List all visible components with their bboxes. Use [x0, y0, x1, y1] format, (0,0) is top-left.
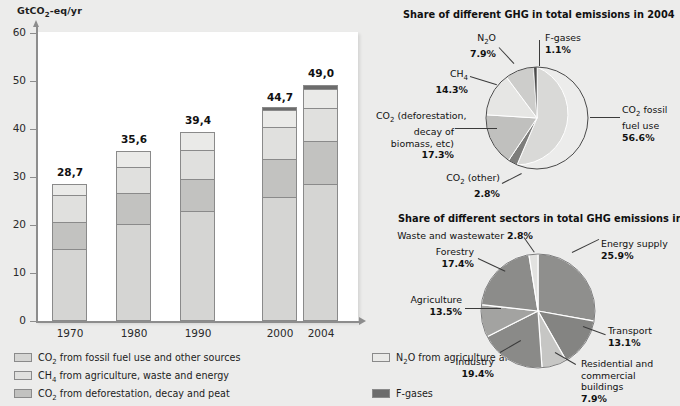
- pie-ghg-leader-co2-deforestation: [455, 128, 497, 129]
- pie-ghg-value-n2o: 7.9%: [470, 48, 496, 59]
- y-tick-label-20: 20: [2, 218, 26, 230]
- bar-2004[interactable]: [303, 0, 338, 322]
- pie-sectors-value-transport: 13.1%: [608, 337, 641, 348]
- pie-ghg-label-fgases: F-gases 1.1%: [545, 32, 615, 55]
- pie-ghg-chart[interactable]: [485, 66, 589, 170]
- pie-sectors-label-forestry: Forestry 17.4%: [400, 246, 474, 269]
- y-axis-title-main: GtCO: [17, 5, 45, 16]
- y-tick-label-10: 10: [2, 266, 26, 278]
- bar-2000-seg-co2-deforestation: [262, 159, 297, 197]
- pie-ghg-label-ch4: CH4 14.3%: [400, 68, 468, 96]
- pie-sectors-svg: [480, 253, 596, 369]
- bar-total-1970: 28,7: [40, 166, 100, 178]
- pie-sectors-value-industry: 19.4%: [461, 368, 494, 379]
- legend-item-ch4[interactable]: CH4 from agriculture, waste and energy: [14, 370, 229, 384]
- bar-1970-seg-n2o: [52, 184, 87, 195]
- pie-ghg-value-co2-deforestation: 17.3%: [421, 149, 454, 160]
- pie-sectors-chart[interactable]: [480, 253, 596, 369]
- y-tick-0: [30, 321, 37, 322]
- legend-swatch-co2-deforestation: [14, 389, 32, 398]
- y-tick-label-0: 0: [2, 314, 26, 326]
- legend-item-fgases[interactable]: F-gases: [372, 388, 433, 399]
- bar-1980-seg-n2o: [116, 151, 151, 167]
- bar-1970[interactable]: [52, 0, 87, 322]
- bar-2004-seg-co2-deforestation: [303, 141, 338, 184]
- pie-ghg-leader-co2-fossil: [590, 117, 620, 118]
- bar-1980-seg-ch4: [116, 167, 151, 193]
- pie-sectors-label-forestry-name: Forestry: [436, 246, 474, 257]
- pie-ghg-svg: [485, 66, 589, 170]
- pie-sectors-value-agriculture: 13.5%: [429, 306, 462, 317]
- pie-sectors-leader-agriculture: [465, 308, 501, 309]
- x-tick-label-1980: 1980: [110, 327, 158, 339]
- pie-ghg-leader-fgases: [539, 40, 540, 66]
- bar-1980-seg-co2-deforestation: [116, 193, 151, 224]
- pie-ghg-label-co2f-pre: CO: [622, 104, 636, 115]
- y-tick-40: [30, 129, 37, 130]
- y-tick-label-60: 60: [2, 26, 26, 38]
- bar-1970-seg-co2-deforestation: [52, 222, 87, 249]
- pie-ghg-label-fgases-name: F-gases: [545, 32, 581, 43]
- bar-2004-seg-n2o: [303, 89, 338, 108]
- pie-ghg-label-co2d-post: (deforestation,: [394, 110, 466, 121]
- pie-ghg-value-ch4: 14.3%: [435, 84, 468, 95]
- bar-1970-seg-co2-fossil: [52, 249, 87, 321]
- x-axis-arrow-icon: [359, 317, 366, 325]
- pie-ghg-label-co2d-pre: CO: [376, 110, 390, 121]
- pie-ghg-label-co2f-post2: fuel use: [622, 120, 659, 131]
- legend-label-co2-fossil-pre: CO: [38, 352, 52, 363]
- bar-2000-seg-ch4: [262, 127, 297, 159]
- legend-label-ch4-post: from agriculture, waste and energy: [56, 370, 229, 381]
- pie-ghg-label-co2o-post: (other): [465, 172, 500, 183]
- bar-total-2004: 49,0: [291, 67, 351, 79]
- legend-item-co2-deforestation[interactable]: CO2 from deforestation, decay and peat: [14, 388, 230, 402]
- y-axis-line: [36, 26, 38, 322]
- pie-sectors-label-agriculture: Agriculture 13.5%: [378, 294, 462, 317]
- pie-ghg-value-co2-other: 2.8%: [474, 188, 500, 199]
- pie-ghg-label-ch4-sub: 4: [464, 74, 468, 82]
- legend-label-fgases: F-gases: [396, 388, 433, 399]
- pie-ghg-label-co2-deforestation: CO2 (deforestation, decay of biomass, et…: [376, 110, 454, 161]
- pie-ghg-value-co2-fossil: 56.6%: [622, 132, 655, 143]
- y-tick-label-40: 40: [2, 122, 26, 134]
- pie-sectors-leader-energy: [572, 239, 599, 253]
- y-tick-20: [30, 225, 37, 226]
- y-tick-60: [30, 33, 37, 34]
- bar-total-1990: 39,4: [168, 114, 228, 126]
- pie-ghg-label-co2-other: CO2 (other) 2.8%: [428, 172, 500, 200]
- bar-1970-seg-ch4: [52, 195, 87, 222]
- pie-sectors-label-residential: Residential and commercial buildings 7.9…: [581, 358, 680, 404]
- pie-ghg-label-ch4-pre: CH: [450, 68, 464, 79]
- pie-ghg-label-co2-fossil: CO2 fossil fuel use 56.6%: [622, 104, 680, 143]
- bar-1990[interactable]: [180, 0, 215, 322]
- legend-swatch-fgases: [372, 389, 390, 398]
- legend-item-co2-fossil[interactable]: CO2 from fossil fuel use and other sourc…: [14, 352, 240, 366]
- pie-sectors-label-agriculture-name: Agriculture: [410, 294, 462, 305]
- pie-ghg-label-n2o-post: O: [489, 32, 496, 43]
- bar-1980-seg-co2-fossil: [116, 224, 151, 321]
- pie-sectors-slice-energy-supply: [538, 254, 595, 321]
- legend-swatch-co2-fossil: [14, 353, 32, 362]
- legend-label-ch4-pre: CH: [38, 370, 52, 381]
- pie-sectors-title: Share of different sectors in total GHG …: [398, 213, 680, 224]
- pie-sectors-label-energy-name: Energy supply: [601, 238, 668, 249]
- bar-2000-seg-fgases: [262, 107, 297, 110]
- pie-sectors-value-residential: 7.9%: [581, 393, 607, 404]
- x-tick-label-1990: 1990: [174, 327, 222, 339]
- bar-total-2000: 44,7: [250, 91, 310, 103]
- y-tick-30: [30, 177, 37, 178]
- bar-chart-panel: GtCO2-eq/yr 60 50 40 30 20 10 0 28,7 197…: [0, 0, 372, 406]
- bar-1990-seg-ch4: [180, 150, 215, 179]
- y-tick-10: [30, 273, 37, 274]
- x-tick-label-1970: 1970: [46, 327, 94, 339]
- bar-1980[interactable]: [116, 0, 151, 322]
- pie-ghg-label-co2f-post: fossil: [640, 104, 667, 115]
- bar-2000-seg-co2-fossil: [262, 197, 297, 321]
- pie-sectors-label-residential-name: Residential and: [581, 358, 653, 369]
- pie-sectors-label-waste-name: Waste and wastewater: [397, 230, 504, 241]
- pie-sectors-label-waste: Waste and wastewater 2.8%: [393, 230, 533, 242]
- legend-label-co2-def-pre: CO: [38, 388, 52, 399]
- pie-ghg-label-co2d-post3: biomass, etc): [391, 138, 454, 149]
- bar-2000[interactable]: [262, 0, 297, 322]
- legend-label-co2-fossil-post: from fossil fuel use and other sources: [57, 352, 241, 363]
